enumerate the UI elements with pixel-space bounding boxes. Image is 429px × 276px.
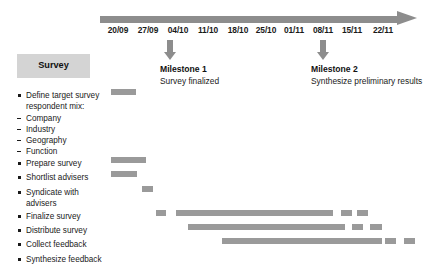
survey-header-label: Survey	[17, 60, 90, 70]
gantt-bar-segment	[385, 238, 396, 244]
task-label: Shortlist advisers	[17, 172, 88, 183]
gantt-bar-segment	[404, 238, 415, 244]
task-label-continuation: respondent mix:	[17, 101, 84, 112]
milestone-title: Milestone 1	[160, 64, 290, 75]
axis-tick-label: 04/10	[168, 25, 188, 35]
gantt-bar-segment	[142, 186, 153, 192]
axis-tick-label: 20/09	[108, 25, 128, 35]
milestone-marker-icon	[317, 40, 329, 60]
milestone-description: Survey finalized	[160, 76, 290, 87]
axis-tick-label: 15/11	[342, 25, 362, 35]
timeline-arrow-icon	[397, 11, 417, 25]
gantt-bar-segment	[341, 210, 352, 216]
axis-tick-label: 27/09	[138, 25, 158, 35]
axis-tick-label: 01/11	[284, 25, 304, 35]
gantt-bar-segment	[352, 224, 363, 230]
task-label-continuation: advisers	[17, 198, 57, 209]
milestone-marker-point	[317, 52, 329, 60]
task-label: Prepare survey	[17, 158, 82, 169]
task-label: Finalize survey	[17, 211, 81, 222]
milestone-title: Milestone 2	[311, 64, 429, 75]
milestone-marker-icon	[164, 40, 176, 60]
survey-header-chip: Survey	[17, 54, 90, 78]
timeline-tick-labels: 20/0927/0904/1011/1018/1025/1001/1108/11…	[0, 25, 429, 39]
task-label: Syndicate with	[17, 187, 79, 198]
task-label: Distribute survey	[17, 225, 87, 236]
axis-tick-label: 08/11	[313, 25, 333, 35]
timeline-axis-bar	[100, 16, 400, 23]
gantt-bar-segment	[370, 224, 382, 230]
task-label: Geography	[17, 135, 67, 146]
milestone-description: Synthesize preliminary results	[311, 76, 429, 87]
gantt-chart-canvas: 20/0927/0904/1011/1018/1025/1001/1108/11…	[0, 0, 429, 276]
task-label-list: Define target surveyrespondent mix:Compa…	[17, 90, 125, 270]
axis-tick-label: 25/10	[256, 25, 276, 35]
axis-tick-label: 22/11	[373, 25, 393, 35]
task-label: Industry	[17, 124, 55, 135]
gantt-bar-segment	[188, 224, 345, 230]
task-label: Define target survey	[17, 90, 99, 101]
gantt-bar-segment	[156, 210, 166, 216]
gantt-bar-segment	[357, 210, 368, 216]
task-label: Collect feedback	[17, 239, 87, 250]
task-label: Company	[17, 113, 61, 124]
axis-tick-label: 11/10	[198, 25, 218, 35]
gantt-bar-segment	[176, 210, 333, 216]
milestone-label-block: Milestone 2Synthesize preliminary result…	[311, 64, 429, 87]
gantt-bar-segment	[222, 238, 382, 244]
milestone-label-block: Milestone 1Survey finalized	[160, 64, 290, 87]
milestone-marker-point	[164, 52, 176, 60]
task-label: Function	[17, 146, 57, 157]
task-label: Synthesize feedback	[17, 254, 102, 265]
axis-tick-label: 18/10	[228, 25, 248, 35]
